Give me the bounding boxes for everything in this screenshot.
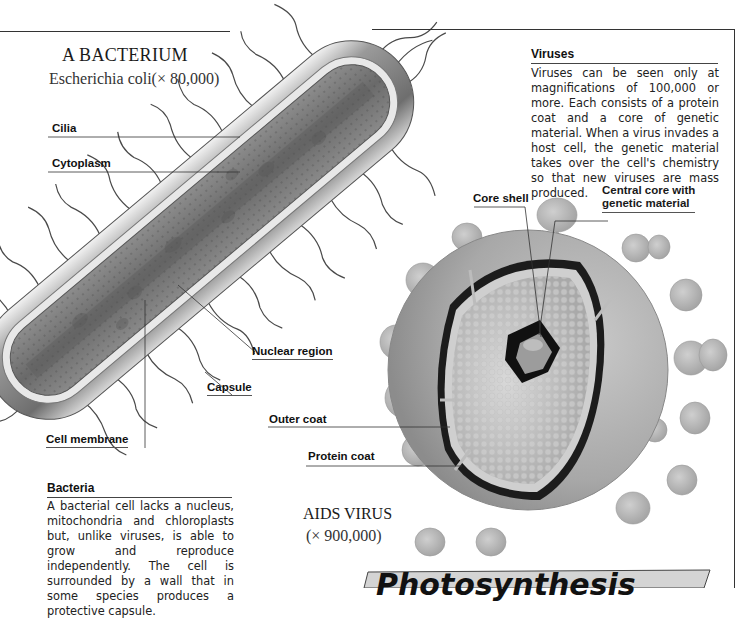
viruses-body: Viruses can be seen only at magnificatio… — [531, 66, 719, 201]
photosynthesis-title: Photosynthesis — [376, 570, 636, 600]
virus-illustration — [380, 198, 727, 556]
label-cell-membrane: Cell membrane — [46, 433, 128, 448]
label-central-core-line2: genetic material — [602, 197, 695, 210]
label-central-core: Central core with genetic material — [602, 184, 695, 213]
label-cytoplasm: Cytoplasm — [52, 157, 111, 171]
label-nuclear-region: Nuclear region — [252, 345, 333, 360]
label-capsule: Capsule — [207, 381, 252, 396]
label-protein-coat: Protein coat — [308, 450, 374, 464]
viruses-heading: Viruses — [531, 47, 718, 64]
virus-subtitle: (× 900,000) — [306, 527, 382, 545]
label-outer-coat: Outer coat — [269, 413, 327, 427]
label-central-core-line1: Central core with — [602, 184, 695, 197]
bacterium-title: A BACTERIUM — [62, 45, 188, 66]
virus-title: AIDS VIRUS — [303, 505, 392, 523]
nuclear-region-band — [31, 89, 368, 372]
label-cilia: Cilia — [52, 122, 76, 136]
bacteria-heading: Bacteria — [47, 481, 232, 498]
label-core-shell: Core shell — [473, 192, 529, 206]
bacterium-subtitle: Escherichia coli(× 80,000) — [49, 70, 219, 88]
bacteria-body: A bacterial cell lacks a nucleus, mitoch… — [47, 499, 234, 619]
